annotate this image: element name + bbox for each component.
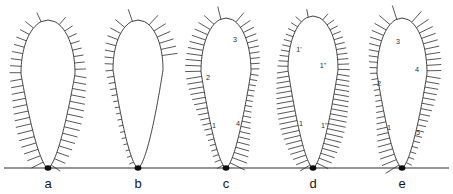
bristle	[249, 85, 256, 86]
panel-letters-group: abcde	[44, 176, 405, 191]
bristle	[210, 144, 216, 146]
bristle	[279, 61, 289, 62]
bristle	[72, 48, 81, 50]
bristle	[32, 162, 44, 168]
zone-label-e-1: 1	[387, 123, 391, 132]
bristle	[64, 127, 79, 131]
outline-c	[201, 18, 251, 168]
bristle	[204, 15, 214, 24]
bristle	[244, 111, 251, 112]
bristle	[67, 114, 83, 117]
bristle	[334, 37, 343, 40]
bristle	[379, 16, 390, 25]
bristle	[59, 146, 72, 150]
bristle	[336, 48, 346, 50]
bristle	[288, 145, 303, 149]
bristle	[426, 82, 440, 84]
bristle	[74, 55, 84, 57]
bristle	[117, 119, 121, 120]
bristle	[230, 163, 245, 170]
bristle	[377, 138, 389, 141]
bristle	[10, 66, 21, 67]
bristle	[13, 105, 27, 108]
bristle	[68, 34, 77, 38]
bristle	[54, 159, 65, 164]
bristle	[115, 107, 120, 108]
bristle	[327, 20, 334, 25]
bristle	[369, 62, 377, 63]
bristle	[369, 50, 379, 52]
bristle	[325, 138, 341, 142]
bristle	[424, 92, 437, 94]
bristle	[250, 79, 257, 80]
bristle	[21, 143, 36, 147]
bristle	[319, 158, 332, 163]
bristle	[336, 84, 350, 86]
bristle	[204, 129, 211, 131]
bristle	[189, 87, 204, 90]
bristle	[236, 147, 249, 151]
bristle	[129, 162, 133, 164]
bristle	[63, 133, 78, 137]
bristle	[307, 9, 309, 17]
bristle	[245, 105, 252, 106]
teardrop-series-figure: 123411'1''1'''12345 abcde	[0, 0, 453, 194]
bristle	[243, 27, 254, 32]
bristle	[157, 31, 170, 37]
bristle	[284, 40, 292, 42]
bristle	[382, 160, 396, 166]
bristle	[329, 119, 346, 123]
apex-dot-c	[223, 165, 230, 171]
bristle	[161, 46, 176, 49]
bristle	[410, 152, 416, 154]
bristle	[417, 125, 426, 127]
panel-d: 11'1''1'''	[276, 9, 349, 171]
bristle	[243, 116, 251, 118]
bristle	[420, 114, 430, 116]
bristle	[72, 88, 85, 91]
bristle	[380, 154, 394, 159]
bristle	[296, 160, 308, 165]
bristle	[337, 74, 349, 76]
bristle	[192, 97, 205, 99]
bristle	[110, 89, 116, 90]
bristle	[372, 30, 384, 35]
panel-letter-e: e	[398, 176, 405, 191]
bristle	[326, 133, 343, 137]
bristle	[237, 142, 250, 145]
bristle	[425, 46, 440, 49]
bristle	[427, 65, 441, 66]
bristle	[15, 117, 30, 120]
bristle	[124, 144, 128, 145]
bristle	[296, 17, 302, 22]
bristle	[277, 81, 290, 83]
bristle	[416, 19, 428, 27]
bristle	[211, 149, 217, 151]
bristle	[419, 27, 432, 33]
bristle	[377, 133, 388, 136]
bristle	[425, 87, 438, 89]
panel-letter-a: a	[44, 176, 52, 191]
bristle	[249, 46, 259, 48]
bristle	[251, 63, 260, 64]
bristle	[247, 40, 257, 43]
bristle	[324, 143, 340, 147]
bristle	[202, 123, 210, 125]
bristle	[282, 45, 290, 47]
bristle	[284, 135, 301, 139]
bristle	[20, 30, 29, 35]
bristle	[251, 74, 259, 75]
bristle	[377, 127, 387, 129]
apex-dot-e	[399, 165, 406, 171]
bristle	[375, 23, 387, 30]
bristle	[213, 155, 219, 157]
bristle	[75, 76, 87, 78]
bristle	[248, 90, 255, 91]
bristle	[421, 109, 432, 111]
bristle	[236, 13, 244, 22]
bristle	[246, 34, 257, 38]
bristle	[218, 7, 221, 20]
bristle	[14, 44, 24, 47]
apex-dot-b	[135, 165, 142, 171]
bristle	[113, 101, 118, 102]
